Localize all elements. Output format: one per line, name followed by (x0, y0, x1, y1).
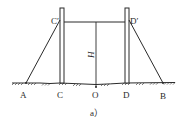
label-c-prime: C′ (51, 16, 59, 26)
anchor-b-marker (162, 82, 164, 84)
gantry-diagram: C′ D′ H A C O D B a） (0, 0, 185, 122)
point-o-marker (95, 86, 97, 88)
label-b: B (160, 91, 166, 101)
label-c: C (57, 90, 63, 100)
guy-line-right (129, 20, 163, 83)
figure-caption: a） (90, 108, 103, 118)
label-a: A (20, 90, 27, 100)
label-o: O (92, 90, 99, 100)
label-h: H (86, 51, 96, 59)
anchor-a-marker (25, 82, 27, 84)
left-pole (60, 8, 64, 83)
label-d-prime: D′ (130, 16, 138, 26)
right-pole (125, 8, 129, 83)
label-d: D (123, 90, 130, 100)
guy-line-left (26, 20, 60, 83)
ground (12, 83, 175, 87)
